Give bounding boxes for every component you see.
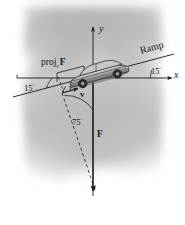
x-axis-label: x (174, 70, 178, 80)
vector-projection-diagram: y x Ramp projvF 15° 15° 75° v F (0, 0, 185, 225)
projection-label-subscript: v (56, 63, 58, 69)
angle-between-degree-symbol: ° (81, 117, 83, 122)
angle-left-degree-symbol: ° (33, 83, 35, 88)
velocity-vector-label: v (80, 90, 85, 99)
angle-between-value: 75 (72, 117, 81, 127)
angle-right-value: 15 (151, 66, 160, 76)
projection-label-text: proj (41, 57, 56, 67)
projection-label: projvF (41, 58, 66, 69)
angle-left-value: 15 (24, 83, 33, 93)
force-vector-label: F (97, 130, 103, 140)
diagram-canvas (0, 0, 185, 225)
angle-right-degree-symbol: ° (160, 66, 162, 71)
angle-right-label: 15° (151, 66, 162, 75)
projection-label-vector: F (60, 57, 66, 67)
y-axis-label: y (99, 24, 103, 34)
angle-left-label: 15° (24, 83, 35, 92)
angle-between-label: 75° (72, 117, 83, 126)
